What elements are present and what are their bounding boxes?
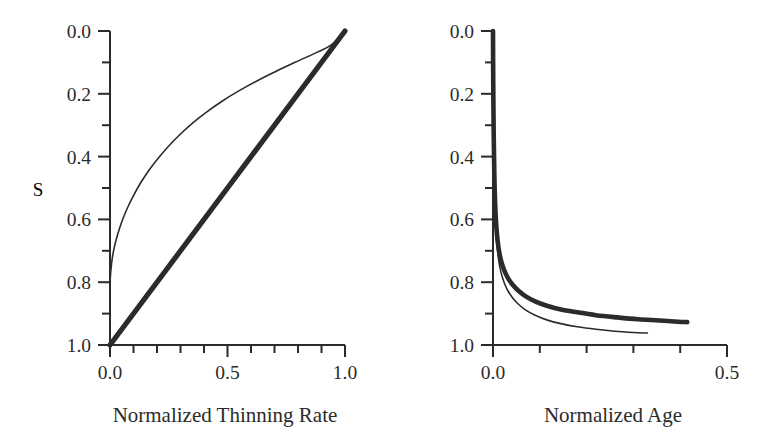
chart-panel-right: 0.00.20.40.60.81.00.00.5Normalized Age (390, 0, 771, 437)
x-tick-label: 1.0 (333, 362, 357, 383)
y-tick-label: 0.2 (67, 84, 91, 105)
y-tick-label: 0.4 (450, 147, 475, 168)
x-axis-title: Normalized Thinning Rate (113, 403, 338, 427)
plot-area-left: 0.00.20.40.60.81.00.00.51.0Normalized Th… (0, 0, 390, 437)
y-tick-label: 0.8 (67, 272, 91, 293)
y-tick-label: 1.0 (67, 335, 91, 356)
series-line-thick-curve (493, 31, 687, 322)
x-tick-label: 0.0 (481, 362, 505, 383)
y-tick-label: 1.0 (450, 335, 474, 356)
series-line-thick-line (110, 31, 345, 345)
y-axis-title: S (33, 179, 44, 200)
y-tick-label: 0.2 (450, 84, 474, 105)
y-tick-label: 0.6 (450, 209, 475, 230)
chart-panel-left: 0.00.20.40.60.81.00.00.51.0Normalized Th… (0, 0, 390, 437)
plot-area-right: 0.00.20.40.60.81.00.00.5Normalized Age (390, 0, 771, 437)
x-axis-title: Normalized Age (544, 403, 682, 427)
series-line-thin-curve (110, 31, 345, 282)
y-tick-label: 0.0 (450, 21, 474, 42)
x-tick-label: 0.5 (215, 362, 239, 383)
y-tick-label: 0.8 (450, 272, 474, 293)
x-tick-label: 0.0 (98, 362, 122, 383)
y-tick-label: 0.6 (67, 209, 92, 230)
y-tick-label: 0.4 (67, 147, 92, 168)
figure-container: 0.00.20.40.60.81.00.00.51.0Normalized Th… (0, 0, 771, 437)
y-tick-label: 0.0 (67, 21, 91, 42)
x-tick-label: 0.5 (715, 362, 739, 383)
